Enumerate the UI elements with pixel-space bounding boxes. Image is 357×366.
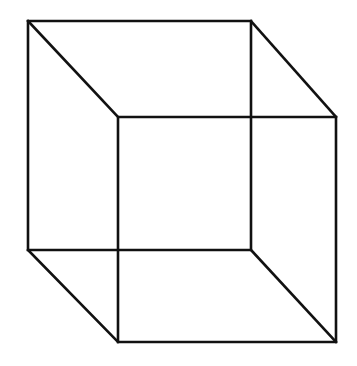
necker-cube-drawing: Necker cube: a two-dimensional line draw… <box>0 0 357 366</box>
figure-canvas: Necker cube: a two-dimensional line draw… <box>0 0 357 366</box>
drawing-background <box>0 0 357 366</box>
